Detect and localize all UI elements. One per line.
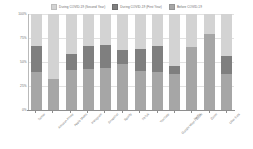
bar-segment-first-year [169, 66, 180, 74]
bar-segment-first-year [83, 46, 94, 69]
bar-segment-second-year [31, 14, 42, 46]
bar-segment-before-covid [186, 47, 197, 110]
bar-column[interactable] [31, 14, 42, 110]
x-label-slot: Apple Music [65, 113, 76, 149]
y-axis-tick-label: 100% [18, 12, 26, 16]
bar-segment-first-year [152, 46, 163, 72]
legend-swatch-icon [51, 4, 57, 10]
x-label-slot: Instagram [82, 113, 93, 149]
x-label-slot: Twitter [30, 113, 41, 149]
x-label-slot: Zoom [204, 113, 215, 149]
bar-segment-before-covid [100, 68, 111, 110]
x-axis-tick-label: Twitter [37, 113, 46, 122]
bar-segment-first-year [135, 49, 146, 71]
legend-item-first-year[interactable]: During COVID-19 (First Year) [112, 4, 162, 10]
bar-segment-second-year [83, 14, 94, 46]
legend-label: During COVID-19 (First Year) [120, 5, 162, 9]
y-axis-tick-label: 0% [22, 108, 27, 112]
bar-segment-second-year [48, 14, 59, 79]
x-label-slot: TikTok [134, 113, 145, 149]
x-label-slot: Amazon Prime [47, 113, 58, 149]
bar-column[interactable] [135, 14, 146, 110]
x-label-slot: Uber Eats [221, 113, 232, 149]
legend-swatch-icon [112, 4, 118, 10]
bar-segment-second-year [66, 14, 77, 54]
bar-column[interactable] [221, 14, 232, 110]
chart-legend: During COVID-19 (Second Year) During COV… [0, 1, 253, 12]
x-axis-tick-labels: TwitterAmazon PrimeApple MusicInstagramS… [28, 113, 234, 149]
bar-column[interactable] [117, 14, 128, 110]
bar-segment-before-covid [221, 74, 232, 110]
legend-label: Before COVID-19 [177, 5, 202, 9]
x-axis-tick-label: TikTok [141, 113, 150, 122]
x-label-slot: Spotify [117, 113, 128, 149]
bar-segment-before-covid [204, 34, 215, 110]
x-axis-tick-label: Uber Eats [229, 113, 241, 125]
bar-segment-second-year [204, 14, 215, 34]
bar-column[interactable] [48, 14, 59, 110]
legend-swatch-icon [169, 4, 175, 10]
bar-segment-before-covid [48, 79, 59, 110]
bar-segment-first-year [31, 46, 42, 72]
bar-segment-first-year [221, 56, 232, 73]
bar-segment-before-covid [66, 70, 77, 110]
plot-area: 0%25%50%75%100% [28, 14, 234, 110]
bar-segment-before-covid [31, 72, 42, 110]
x-axis-tick-label: Spotify [124, 113, 133, 122]
y-axis-tick-label: 50% [20, 60, 26, 64]
x-label-slot: Snapchat [99, 113, 110, 149]
bar-segment-second-year [135, 14, 146, 49]
bar-segment-second-year [117, 14, 128, 50]
stacked-bar-chart: During COVID-19 (Second Year) During COV… [0, 0, 253, 149]
bar-column[interactable] [83, 14, 94, 110]
bar-segment-before-covid [83, 69, 94, 110]
bar-segment-second-year [152, 14, 163, 46]
bar-series-group [29, 14, 234, 110]
y-axis-tick-label: 75% [20, 36, 26, 40]
bar-segment-second-year [186, 14, 197, 47]
bar-column[interactable] [204, 14, 215, 110]
bar-segment-before-covid [169, 74, 180, 110]
bar-column[interactable] [66, 14, 77, 110]
bar-segment-second-year [221, 14, 232, 56]
legend-item-second-year[interactable]: During COVID-19 (Second Year) [51, 4, 105, 10]
legend-label: During COVID-19 (Second Year) [59, 5, 105, 9]
bar-column[interactable] [186, 14, 197, 110]
bar-segment-before-covid [117, 64, 128, 110]
bar-segment-before-covid [152, 72, 163, 110]
bar-column[interactable] [152, 14, 163, 110]
bar-segment-first-year [66, 54, 77, 69]
bar-segment-second-year [100, 14, 111, 45]
x-axis-tick-label: Zoom [210, 113, 218, 121]
legend-item-before-covid[interactable]: Before COVID-19 [169, 4, 202, 10]
bar-segment-first-year [100, 45, 111, 68]
x-label-slot: Google Meet / Zoom [169, 113, 180, 149]
bar-segment-second-year [169, 14, 180, 66]
y-axis-tick-label: 25% [20, 84, 26, 88]
bar-column[interactable] [100, 14, 111, 110]
x-label-slot: YouTube [152, 113, 163, 149]
bar-segment-first-year [117, 50, 128, 63]
x-label-slot: Netflix [186, 113, 197, 149]
bar-column[interactable] [169, 14, 180, 110]
bar-segment-before-covid [135, 71, 146, 110]
